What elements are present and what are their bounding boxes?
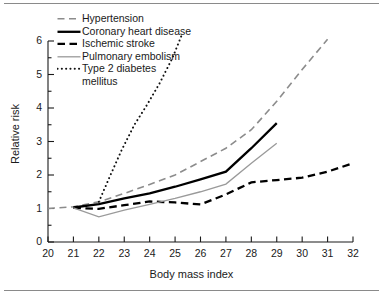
x-tick-label: 24 — [138, 247, 162, 259]
x-tick-label: 29 — [265, 247, 289, 259]
legend-swatch-icon — [57, 12, 82, 25]
legend-label-continuation: mellitus — [57, 75, 247, 88]
x-tick-label: 21 — [61, 247, 85, 259]
y-tick-label: 5 — [14, 68, 42, 80]
x-axis-title: Body mass index — [0, 268, 383, 280]
legend-label: Type 2 diabetes — [82, 62, 156, 75]
y-tick-label: 6 — [14, 34, 42, 46]
y-axis-ticks — [48, 41, 54, 242]
x-tick-label: 23 — [112, 247, 136, 259]
x-tick-label: 20 — [36, 247, 60, 259]
legend-label: Hypertension — [82, 12, 144, 25]
legend-label: Coronary heart disease — [82, 25, 191, 38]
x-tick-label: 26 — [189, 247, 213, 259]
y-tick-label: 1 — [14, 202, 42, 214]
legend-item: Hypertension — [57, 12, 247, 25]
x-tick-label: 28 — [239, 247, 263, 259]
x-tick-label: 32 — [341, 247, 365, 259]
chart-figure: 0123456 20212223242526272829303132 Body … — [0, 0, 383, 295]
y-axis-title: Relative risk — [9, 89, 21, 179]
legend-swatch-icon — [57, 37, 82, 50]
x-tick-label: 22 — [87, 247, 111, 259]
legend-item: Coronary heart disease — [57, 25, 247, 38]
series-line — [73, 123, 276, 207]
legend-item: Ischemic stroke — [57, 37, 247, 50]
legend-item: Type 2 diabetes — [57, 62, 247, 75]
legend-swatch-icon — [57, 50, 82, 63]
series-line — [73, 163, 353, 209]
legend-item: Pulmonary embolism — [57, 50, 247, 63]
x-tick-label: 27 — [214, 247, 238, 259]
x-tick-label: 25 — [163, 247, 187, 259]
legend-label: Ischemic stroke — [82, 37, 155, 50]
chart-legend: HypertensionCoronary heart diseaseIschem… — [57, 12, 247, 88]
legend-label: Pulmonary embolism — [82, 50, 180, 63]
y-tick-label: 0 — [14, 235, 42, 247]
x-tick-label: 30 — [290, 247, 314, 259]
legend-swatch-icon — [57, 62, 82, 75]
x-axis-ticks — [48, 237, 353, 243]
x-tick-label: 31 — [316, 247, 340, 259]
legend-swatch-icon — [57, 25, 82, 38]
